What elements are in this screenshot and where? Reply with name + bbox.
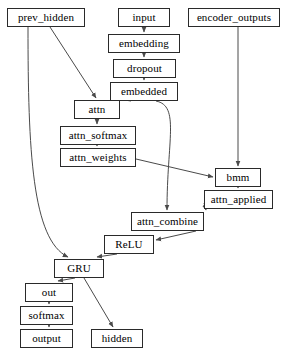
node-label: bmm <box>227 172 250 183</box>
node-out[interactable]: out <box>25 283 73 302</box>
node-ReLU[interactable]: ReLU <box>104 235 154 254</box>
node-label: softmax <box>28 310 64 321</box>
node-bmm[interactable]: bmm <box>215 168 261 187</box>
node-attn_softmax[interactable]: attn_softmax <box>60 126 136 145</box>
node-softmax[interactable]: softmax <box>20 306 73 325</box>
node-label: output <box>32 333 61 344</box>
node-prev_hidden[interactable]: prev_hidden <box>7 8 85 27</box>
node-label: attn_combine <box>137 216 198 227</box>
diagram-canvas: prev_hiddeninputencoder_outputsembedding… <box>0 0 285 356</box>
edge-GRU-to-out <box>58 278 75 281</box>
node-label: attn_applied <box>211 194 267 205</box>
node-label: input <box>132 12 155 23</box>
node-label: out <box>42 287 56 298</box>
edge-prev_hidden-to-attn <box>50 27 96 98</box>
node-label: attn_softmax <box>69 130 128 141</box>
node-label: dropout <box>127 63 162 74</box>
node-label: embedding <box>119 38 169 49</box>
node-embedding[interactable]: embedding <box>108 34 180 53</box>
node-label: GRU <box>67 263 91 274</box>
edge-attn_combine-to-ReLU <box>156 231 196 240</box>
node-output[interactable]: output <box>20 329 73 348</box>
node-hidden[interactable]: hidden <box>91 329 143 348</box>
node-dropout[interactable]: dropout <box>113 59 176 78</box>
node-attn_weights[interactable]: attn_weights <box>60 148 136 167</box>
node-label: attn_weights <box>69 152 126 163</box>
node-label: attn <box>89 104 106 115</box>
node-label: prev_hidden <box>18 12 74 23</box>
edge-attn_weights-to-bmm <box>136 159 213 177</box>
node-GRU[interactable]: GRU <box>54 259 104 278</box>
node-label: hidden <box>102 333 133 344</box>
edge-ReLU-to-GRU <box>97 254 117 257</box>
node-attn_combine[interactable]: attn_combine <box>131 212 204 231</box>
node-label: ReLU <box>115 239 142 250</box>
edge-embedded-to-attn_combine <box>156 101 171 210</box>
node-label: encoder_outputs <box>197 12 271 23</box>
node-label: embedded <box>121 86 167 97</box>
edge-GRU-to-hidden <box>84 278 113 327</box>
node-encoder_outputs[interactable]: encoder_outputs <box>188 8 280 27</box>
node-embedded[interactable]: embedded <box>110 82 178 101</box>
node-input[interactable]: input <box>118 8 170 27</box>
node-attn_applied[interactable]: attn_applied <box>204 190 273 209</box>
node-attn[interactable]: attn <box>74 100 120 119</box>
